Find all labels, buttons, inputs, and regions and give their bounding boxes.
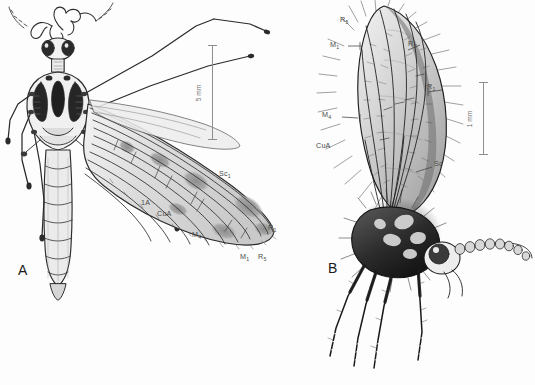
panel-letter-a: A	[18, 262, 28, 278]
panel-a: Sc1 1A CuA M4 M1 R5 R1 5 mm A	[0, 0, 292, 385]
vein-label-m1: M1	[240, 252, 249, 261]
panel-a-illustration	[0, 0, 292, 385]
vein-label-cua: CuA	[157, 209, 172, 218]
figure-plate: Sc1 1A CuA M4 M1 R5 R1 5 mm A	[0, 0, 535, 385]
vein-label-sc1: Sc1	[219, 169, 231, 178]
panel-b: R5 M1 R3 R1 M4 CuA Sc	[292, 0, 535, 385]
scalebar-rule	[483, 82, 484, 155]
scalebar-label: 5 mm	[195, 84, 202, 100]
vein-label-r1: R1	[268, 223, 276, 232]
scalebar-cap-bottom	[208, 139, 217, 140]
panel-b-leader-lines	[292, 0, 535, 385]
scalebar-rule	[212, 45, 213, 140]
panel-letter-b: B	[328, 260, 338, 276]
scalebar-cap-bottom	[479, 154, 488, 155]
vein-label-1a: 1A	[141, 198, 150, 207]
vein-label-r5: R5	[258, 252, 266, 261]
scalebar-label: 1 mm	[466, 110, 473, 126]
vein-label-m4: M4	[192, 230, 201, 239]
